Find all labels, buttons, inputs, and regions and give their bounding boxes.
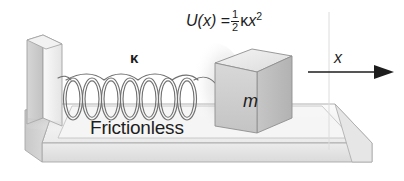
- equation-equals: =: [221, 12, 230, 29]
- arrow-head: [374, 65, 394, 79]
- equation-function: U(x): [186, 12, 216, 29]
- x-axis-label: x: [334, 50, 342, 66]
- platform-front-face: [42, 143, 372, 162]
- wall-support: [27, 35, 62, 132]
- equation-exponent: 2: [256, 10, 262, 22]
- equation-kappa: κ: [240, 12, 248, 29]
- equation-variable: x: [248, 12, 256, 29]
- equation-fraction: 12: [231, 9, 239, 33]
- spring-mass-diagram: U(x) =12κx2 κ Frictionless m x: [0, 0, 404, 181]
- spring-top-ridge: [66, 74, 198, 80]
- potential-energy-equation: U(x) =12κx2: [186, 9, 262, 33]
- mass-label: m: [243, 92, 258, 110]
- fraction-denominator: 2: [231, 22, 239, 34]
- frictionless-surface-label: Frictionless: [90, 118, 184, 137]
- spring-constant-label: κ: [130, 50, 138, 65]
- fraction-numerator: 1: [231, 9, 239, 22]
- wall-side-face: [27, 35, 43, 124]
